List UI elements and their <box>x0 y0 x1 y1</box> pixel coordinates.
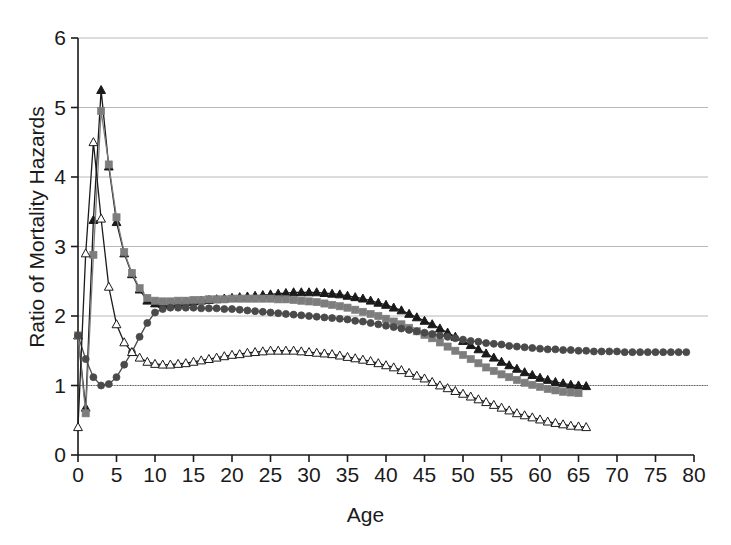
y-tick-label: 1 <box>54 374 66 398</box>
data-point-marker <box>359 308 366 315</box>
data-point-marker <box>467 338 474 345</box>
data-point-marker <box>436 339 443 346</box>
data-point-marker <box>321 300 328 307</box>
x-tick-label: 45 <box>413 463 436 487</box>
data-point-marker <box>298 312 305 319</box>
data-point-marker <box>683 349 690 356</box>
data-point-marker <box>382 315 389 322</box>
data-point-marker <box>652 349 659 356</box>
data-point-marker <box>529 381 536 388</box>
data-point-marker <box>290 311 297 318</box>
data-point-marker <box>375 321 382 328</box>
data-point-marker <box>104 282 113 290</box>
data-point-marker <box>336 303 343 310</box>
series-filled-square-series <box>74 107 582 417</box>
data-point-marker <box>629 349 636 356</box>
data-point-marker <box>144 319 151 326</box>
data-point-marker <box>275 296 282 303</box>
data-point-marker <box>583 347 590 354</box>
data-point-marker <box>259 308 266 315</box>
data-point-marker <box>513 343 520 350</box>
x-tick-label: 10 <box>143 463 166 487</box>
data-point-marker <box>282 296 289 303</box>
data-point-marker <box>128 269 135 276</box>
data-point-marker <box>175 297 182 304</box>
y-tick-label: 3 <box>54 235 66 259</box>
x-tick-label: 15 <box>182 463 205 487</box>
data-point-marker <box>136 285 143 292</box>
x-tick-label: 80 <box>682 463 705 487</box>
data-point-marker <box>282 310 289 317</box>
data-point-marker <box>529 344 536 351</box>
x-tick-label: 25 <box>259 463 282 487</box>
data-point-marker <box>544 346 551 353</box>
data-point-marker <box>513 376 520 383</box>
data-point-marker <box>567 389 574 396</box>
data-point-marker <box>97 86 106 94</box>
data-point-marker <box>306 313 313 320</box>
data-point-marker <box>81 249 90 257</box>
x-tick-label: 75 <box>644 463 667 487</box>
data-point-marker <box>637 349 644 356</box>
data-point-marker <box>144 294 151 301</box>
data-point-marker <box>575 390 582 397</box>
data-point-marker <box>383 322 390 329</box>
data-point-marker <box>406 326 413 333</box>
data-point-marker <box>305 298 312 305</box>
data-point-marker <box>329 315 336 322</box>
data-point-marker <box>521 344 528 351</box>
data-point-marker <box>313 313 320 320</box>
data-point-marker <box>182 304 189 311</box>
data-point-marker <box>506 342 513 349</box>
series-line <box>78 111 579 413</box>
data-point-marker <box>329 301 336 308</box>
data-point-marker <box>97 214 106 222</box>
data-point-marker <box>336 315 343 322</box>
data-point-marker <box>421 329 428 336</box>
data-point-marker <box>98 107 105 114</box>
data-point-marker <box>452 335 459 342</box>
data-point-marker <box>221 306 228 313</box>
data-point-marker <box>644 349 651 356</box>
data-point-marker <box>198 305 205 312</box>
data-point-marker <box>159 306 166 313</box>
data-point-marker <box>190 304 197 311</box>
y-tick-label: 2 <box>54 304 66 328</box>
x-tick-label: 65 <box>567 463 590 487</box>
data-point-marker <box>98 382 105 389</box>
data-point-marker <box>236 306 243 313</box>
x-axis-tick-labels: 05101520253035404550556065707580 <box>0 463 731 493</box>
series-open-triangle-series <box>74 138 591 431</box>
data-point-marker <box>560 347 567 354</box>
data-point-marker <box>90 251 97 258</box>
series-line <box>78 142 586 427</box>
data-point-marker <box>429 331 436 338</box>
data-point-marker <box>290 296 297 303</box>
data-point-marker <box>221 296 228 303</box>
data-point-marker <box>82 356 89 363</box>
data-point-marker <box>190 296 197 303</box>
data-point-marker <box>590 348 597 355</box>
data-point-marker <box>198 296 205 303</box>
data-point-marker <box>120 338 129 346</box>
data-point-marker <box>398 325 405 332</box>
data-point-marker <box>660 349 667 356</box>
x-tick-label: 70 <box>605 463 628 487</box>
data-point-marker <box>490 367 497 374</box>
data-point-marker <box>244 307 251 314</box>
data-point-marker <box>175 304 182 311</box>
data-point-marker <box>614 348 621 355</box>
data-point-marker <box>151 297 158 304</box>
data-point-marker <box>252 308 259 315</box>
data-point-marker <box>167 304 174 311</box>
data-point-marker <box>521 379 528 386</box>
data-point-marker <box>205 305 212 312</box>
chart-figure: 0123456 05101520253035404550556065707580… <box>0 0 731 545</box>
data-point-marker <box>352 306 359 313</box>
data-point-marker <box>506 374 513 381</box>
data-point-marker <box>252 295 259 302</box>
y-tick-label: 4 <box>54 165 66 189</box>
data-point-marker <box>228 295 235 302</box>
x-tick-label: 35 <box>336 463 359 487</box>
data-point-marker <box>413 328 420 335</box>
